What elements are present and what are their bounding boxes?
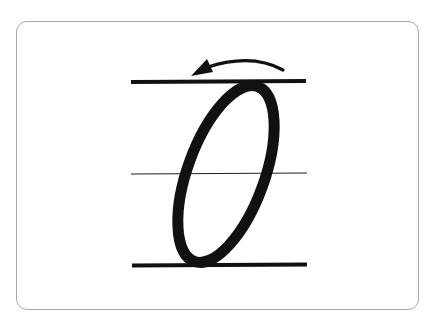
letter-o-diagram xyxy=(0,0,436,327)
base-guide-line xyxy=(132,265,307,266)
arrow-head-icon xyxy=(191,59,213,76)
mid-guide-line xyxy=(131,173,307,174)
top-guide-line xyxy=(131,81,306,82)
direction-arrow-icon xyxy=(208,61,283,70)
